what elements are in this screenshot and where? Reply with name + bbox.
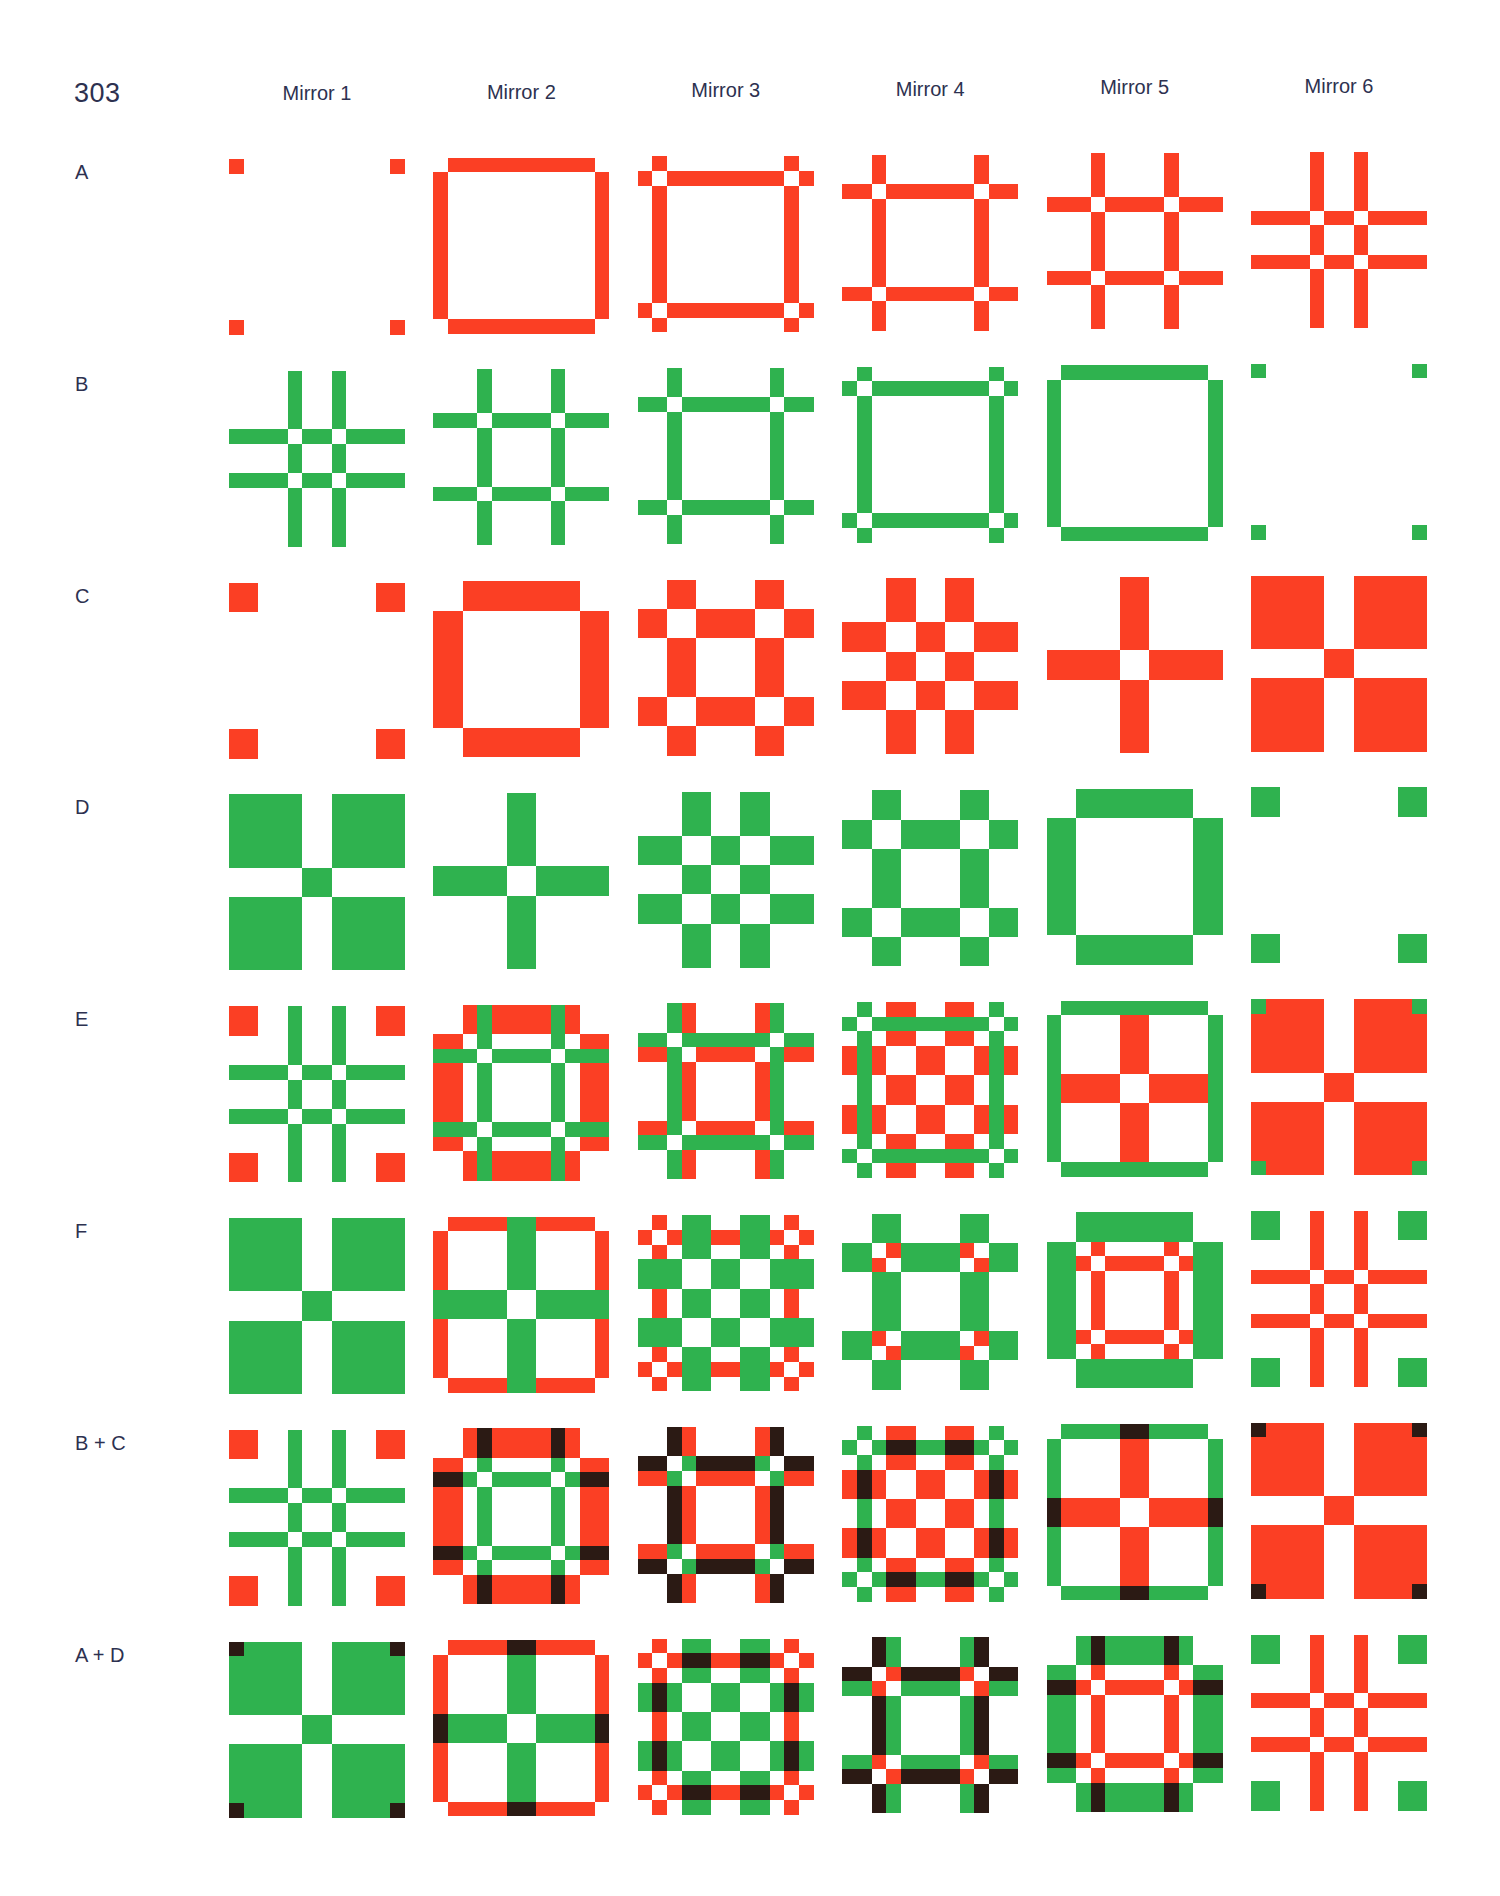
column-header-mirror-2: Mirror 2: [433, 82, 609, 102]
pattern-tile: [842, 1214, 1018, 1390]
pattern-tile: [842, 367, 1018, 543]
pattern-tile: [842, 578, 1018, 754]
pattern-tile: [433, 1428, 609, 1604]
pattern-tile: [842, 1637, 1018, 1813]
pattern-tile: [229, 159, 405, 335]
row-label-c: C: [75, 586, 89, 606]
column-header-mirror-4: Mirror 4: [842, 79, 1018, 99]
row-label-a: A: [75, 162, 88, 182]
pattern-tile: [842, 790, 1018, 966]
pattern-tile: [638, 1427, 814, 1603]
pattern-tile: [638, 1639, 814, 1815]
page-number: 303: [74, 80, 121, 107]
pattern-tile: [1251, 364, 1427, 540]
pattern-tile: [229, 371, 405, 547]
pattern-tile: [1047, 153, 1223, 329]
pattern-tile: [638, 580, 814, 756]
pattern-tile: [1047, 1212, 1223, 1388]
row-label-f: F: [75, 1221, 87, 1241]
pattern-tile: [433, 1217, 609, 1393]
pattern-tile: [1251, 787, 1427, 963]
column-header-mirror-1: Mirror 1: [229, 83, 405, 103]
pattern-tile: [229, 1430, 405, 1606]
pattern-tile: [638, 1215, 814, 1391]
pattern-tile: [433, 1640, 609, 1816]
pattern-tile: [1047, 577, 1223, 753]
pattern-tile: [229, 1006, 405, 1182]
pattern-tile: [1251, 576, 1427, 752]
pattern-tile: [1251, 1635, 1427, 1811]
row-label-d: D: [75, 797, 89, 817]
pattern-tile: [1047, 365, 1223, 541]
pattern-tile: [1047, 1001, 1223, 1177]
pattern-tile: [433, 158, 609, 334]
pattern-tile: [1047, 789, 1223, 965]
row-label-e: E: [75, 1009, 88, 1029]
row-label-bc: B + C: [75, 1433, 126, 1453]
column-header-mirror-5: Mirror 5: [1047, 77, 1223, 97]
pattern-tile: [1047, 1424, 1223, 1600]
column-header-mirror-3: Mirror 3: [638, 80, 814, 100]
pattern-tile: [1251, 1211, 1427, 1387]
pattern-tile: [638, 792, 814, 968]
pattern-tile: [229, 1218, 405, 1394]
pattern-tile: [842, 1426, 1018, 1602]
pattern-tile: [229, 583, 405, 759]
pattern-tile: [433, 1005, 609, 1181]
pattern-tile: [1251, 1423, 1427, 1599]
pattern-tile: [433, 369, 609, 545]
row-label-ad: A + D: [75, 1645, 124, 1665]
pattern-tile: [842, 1002, 1018, 1178]
pattern-tile: [638, 368, 814, 544]
pattern-tile: [229, 1642, 405, 1818]
pattern-tile: [433, 793, 609, 969]
pattern-tile: [638, 1003, 814, 1179]
pattern-tile: [1047, 1636, 1223, 1812]
pattern-tile: [638, 156, 814, 332]
pattern-tile: [842, 155, 1018, 331]
pattern-tile: [433, 581, 609, 757]
row-label-b: B: [75, 374, 88, 394]
pattern-tile: [1251, 152, 1427, 328]
column-header-mirror-6: Mirror 6: [1251, 76, 1427, 96]
pattern-tile: [229, 794, 405, 970]
pattern-tile: [1251, 999, 1427, 1175]
